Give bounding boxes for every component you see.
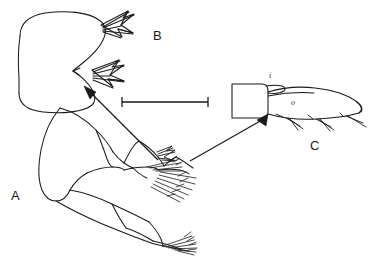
structure-B-lower-lobe xyxy=(19,71,95,113)
arrow-to-B xyxy=(84,86,158,160)
structure-B-median-notch xyxy=(73,68,80,75)
structure-A-ventral-plate xyxy=(70,190,149,222)
structure-B-upper-spine-cluster xyxy=(101,11,134,38)
structure-A-group xyxy=(39,108,197,255)
structure-B-upper-lobe xyxy=(20,12,105,71)
arrow-to-C xyxy=(190,114,268,161)
structure-C-dorsal-margin xyxy=(268,87,361,113)
structure-A-basal-segment xyxy=(39,108,70,201)
structure-A-segment-2 xyxy=(87,167,124,173)
structure-C-marginal-spines xyxy=(276,113,366,131)
part-label-inner-process: i xyxy=(269,72,271,80)
structure-C-group xyxy=(232,84,366,131)
part-label-outer-surface: o xyxy=(291,99,295,107)
line-drawing-canvas xyxy=(0,0,370,258)
arrowhead-B xyxy=(84,86,96,99)
structure-A-setae-distal xyxy=(163,232,197,255)
structure-A-segment-4 xyxy=(159,169,189,174)
structure-B-group xyxy=(18,11,134,113)
figure-panel: A B C i o xyxy=(0,0,370,258)
plate-label-c: C xyxy=(310,139,319,152)
structure-B-lower-spine-cluster xyxy=(92,60,124,88)
structure-A-setae-mid xyxy=(151,172,196,202)
structure-C-basal-segment xyxy=(232,84,268,118)
scale-bar-group xyxy=(122,97,208,107)
arrowhead-C xyxy=(257,114,268,126)
plate-label-a: A xyxy=(11,189,20,202)
plate-label-b: B xyxy=(153,29,162,42)
structure-B-left-margin xyxy=(18,36,20,93)
